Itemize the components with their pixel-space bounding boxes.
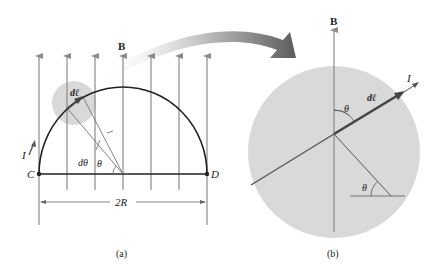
point-d-dot — [205, 172, 209, 176]
caption-b: (b) — [327, 248, 339, 260]
element-label-dl: dℓ — [70, 87, 79, 98]
theta-label-bottom: θ — [362, 182, 367, 193]
dtheta-arc — [107, 131, 113, 133]
field-label-b: B — [118, 40, 126, 52]
theta-label: θ — [97, 158, 102, 169]
caption-a: (a) — [116, 248, 127, 260]
theta-label-top: θ — [344, 103, 349, 114]
point-c-dot — [37, 172, 41, 176]
diagram-canvas: B dℓ I dθ θ C D 2R (a) B I dℓ θ θ (b) — [0, 0, 439, 269]
current-direction-arrowhead-icon — [412, 82, 419, 88]
dtheta-label: dθ — [78, 157, 88, 168]
field-label-b2: B — [330, 15, 338, 27]
dimension-arrowhead-left-icon — [40, 200, 46, 204]
point-c-label: C — [27, 168, 35, 180]
element-label-dl2: dℓ — [367, 92, 376, 103]
point-d-label: D — [210, 168, 219, 180]
dtheta-pointer — [96, 140, 100, 150]
theta-arc — [113, 166, 116, 174]
current-label-i: I — [21, 149, 27, 161]
dimension-arrowhead-right-icon — [200, 200, 206, 204]
panel-b: B I dℓ θ θ (b) — [248, 15, 420, 260]
radius-line-2 — [83, 97, 123, 174]
dimension-label-2r: 2R — [115, 196, 128, 208]
current-label-i2: I — [406, 72, 412, 84]
current-arrowhead-icon — [31, 140, 36, 147]
